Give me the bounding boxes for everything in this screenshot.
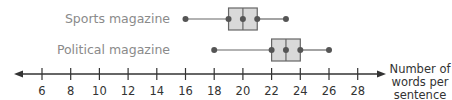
tick-label: 16 xyxy=(178,84,193,98)
tick-label: 8 xyxy=(67,84,74,98)
tick-label: 28 xyxy=(350,84,365,98)
axis-title-line-2: words per xyxy=(391,75,448,89)
data-point xyxy=(283,16,289,22)
data-point xyxy=(240,16,246,22)
tick-label: 22 xyxy=(264,84,279,98)
tick-label: 24 xyxy=(293,84,308,98)
tick-label: 26 xyxy=(322,84,337,98)
number-line-axis: 6810121416182022242628 xyxy=(14,68,386,98)
box-plot-chart: 6810121416182022242628 Sports magazine P… xyxy=(0,0,452,100)
data-point xyxy=(283,47,289,53)
series-label-sports: Sports magazine xyxy=(65,11,170,26)
data-point xyxy=(183,16,189,22)
tick-label: 12 xyxy=(121,84,136,98)
tick-label: 10 xyxy=(92,84,107,98)
arrow-left-icon xyxy=(14,71,23,78)
data-point xyxy=(254,16,260,22)
data-point xyxy=(297,47,303,53)
box-plot-sports xyxy=(183,8,289,30)
tick-label: 14 xyxy=(149,84,164,98)
data-point xyxy=(226,16,232,22)
series-label-political: Political magazine xyxy=(57,42,170,57)
tick-label: 18 xyxy=(207,84,222,98)
axis-title-line-3: sentence xyxy=(394,88,447,100)
tick-label: 20 xyxy=(236,84,251,98)
data-point xyxy=(269,47,275,53)
arrow-right-icon xyxy=(377,71,386,78)
data-point xyxy=(326,47,332,53)
tick-label: 6 xyxy=(38,84,45,98)
data-point xyxy=(211,47,217,53)
box-plot-political xyxy=(211,39,332,61)
axis-title-line-1: Number of xyxy=(390,62,452,76)
